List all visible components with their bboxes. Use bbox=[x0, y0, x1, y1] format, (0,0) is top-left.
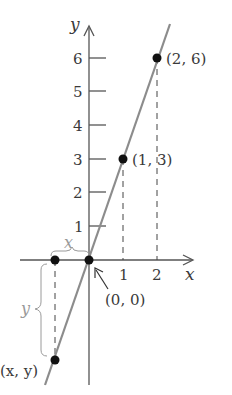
y-tick-4: 4 bbox=[73, 117, 83, 135]
point-label-origin: (0, 0) bbox=[105, 291, 145, 309]
point-2-6 bbox=[153, 54, 162, 63]
y-tick-2: 2 bbox=[73, 184, 83, 202]
x-tick-1: 1 bbox=[119, 266, 129, 284]
y-tick-6: 6 bbox=[73, 50, 83, 68]
x-tick-2: 2 bbox=[152, 266, 162, 284]
graph-line bbox=[45, 24, 170, 385]
y-axis-label: y bbox=[69, 14, 80, 34]
point-label-1-3: (1, 3) bbox=[132, 151, 172, 169]
y-tick-1: 1 bbox=[74, 218, 84, 236]
x-brace-label: x bbox=[64, 233, 73, 252]
line-graph: y x 6 5 4 3 2 1 1 2 (2, 6) (1, 3) (0, 0)… bbox=[0, 0, 232, 395]
y-tick-5: 5 bbox=[73, 83, 83, 101]
y-brace-label: y bbox=[20, 299, 31, 318]
point-x-y bbox=[51, 356, 60, 365]
y-tick-3: 3 bbox=[73, 151, 83, 169]
point-label-2-6: (2, 6) bbox=[166, 50, 206, 68]
point-1-3 bbox=[119, 155, 128, 164]
origin-arrow-icon bbox=[95, 268, 108, 289]
point-origin bbox=[85, 256, 94, 265]
x-axis-label: x bbox=[185, 264, 195, 284]
y-brace bbox=[35, 264, 47, 356]
point-label-x-y: (x, y) bbox=[0, 362, 38, 380]
braces bbox=[35, 247, 89, 356]
point-x-on-axis bbox=[51, 256, 60, 265]
